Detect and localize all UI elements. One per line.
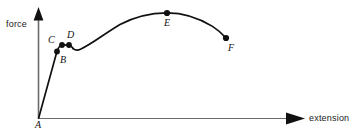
y-axis-arrow-icon [34,7,44,21]
point-marker-C [59,42,65,48]
y-axis-label: force [6,19,27,29]
x-axis-arrow-icon [286,113,305,125]
point-label-b: B [60,54,66,65]
point-marker-E [164,10,170,16]
point-label-e: E [164,17,170,28]
curve-hardening-region-DEF [73,13,226,50]
point-label-d: D [67,29,74,40]
point-label-f: F [228,42,234,53]
force-extension-figure: force extension A B C D E F [0,0,357,134]
x-axis-label: extension [309,113,349,123]
point-marker-F [223,35,229,41]
point-marker-D [66,42,72,48]
curve-elastic-region-AB [39,51,57,118]
point-label-c: C [48,34,55,45]
graph-canvas [0,0,357,134]
point-label-a: A [35,119,41,130]
